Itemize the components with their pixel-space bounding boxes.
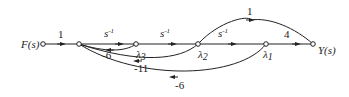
node-x1 bbox=[264, 42, 269, 47]
gain-fb-x1: -6 bbox=[175, 79, 185, 91]
gain-s1: s-1 bbox=[104, 27, 114, 39]
gain-input: 1 bbox=[58, 28, 64, 40]
node-label-x1: λ1 bbox=[262, 48, 273, 62]
node-x2 bbox=[196, 42, 201, 47]
gain-s3: s-1 bbox=[218, 27, 228, 39]
node-output bbox=[311, 42, 316, 47]
node-x3 bbox=[134, 42, 139, 47]
diagram-canvas: F(s) Y(s) 1 s-1 s-1 s-1 4 1 -6 -11 -6 λ3… bbox=[0, 0, 349, 97]
input-label: F(s) bbox=[20, 38, 40, 51]
edge-x2-y bbox=[198, 18, 313, 44]
node-label-x2: λ2 bbox=[197, 48, 208, 62]
node-label-x3: λ3 bbox=[135, 48, 146, 62]
gain-fb-x2: -11 bbox=[134, 62, 148, 74]
node-n1 bbox=[77, 42, 82, 47]
gain-4: 4 bbox=[284, 28, 290, 40]
gain-s2: s-1 bbox=[160, 27, 170, 39]
gain-feedforward: 1 bbox=[247, 5, 253, 17]
gain-fb-x3: -6 bbox=[102, 49, 112, 61]
node-input bbox=[41, 42, 46, 47]
output-label: Y(s) bbox=[318, 44, 336, 57]
signal-flow-graph: F(s) Y(s) 1 s-1 s-1 s-1 4 1 -6 -11 -6 λ3… bbox=[0, 0, 349, 97]
